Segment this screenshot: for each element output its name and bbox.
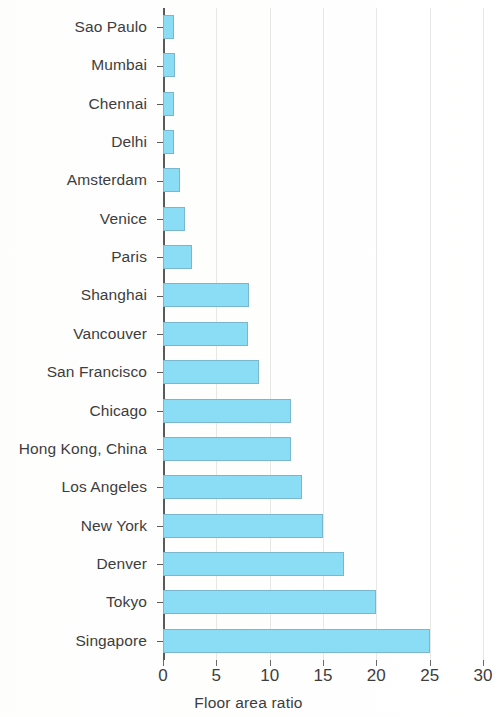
bar-row [163, 545, 483, 583]
bar[interactable] [163, 130, 174, 154]
bar[interactable] [163, 322, 248, 346]
bar-row [163, 583, 483, 621]
y-axis-label: New York [81, 507, 147, 545]
bar-row [163, 430, 483, 468]
x-axis-tick-label: 5 [212, 666, 221, 686]
bar[interactable] [163, 15, 174, 39]
bar[interactable] [163, 552, 344, 576]
y-axis-label: Vancouver [73, 315, 147, 353]
bar-row [163, 161, 483, 199]
y-axis-label: Los Angeles [61, 468, 147, 506]
y-axis-label: Mumbai [91, 46, 147, 84]
bar[interactable] [163, 514, 323, 538]
bar-row [163, 200, 483, 238]
y-axis-label: Tokyo [106, 583, 147, 621]
y-axis-label: Singapore [75, 622, 147, 660]
y-axis-label: Amsterdam [67, 161, 147, 199]
bar[interactable] [163, 92, 174, 116]
bar-row [163, 353, 483, 391]
bar[interactable] [163, 168, 180, 192]
bar[interactable] [163, 399, 291, 423]
y-axis-category-labels: Sao PauloMumbaiChennaiDelhiAmsterdamVeni… [0, 8, 155, 660]
bar[interactable] [163, 360, 259, 384]
x-axis-title: Floor area ratio [0, 694, 497, 712]
y-axis-label: Shanghai [81, 276, 147, 314]
bar-row [163, 238, 483, 276]
bar-row [163, 315, 483, 353]
x-axis-tick-label: 10 [260, 666, 279, 686]
bar[interactable] [163, 590, 376, 614]
y-axis-label: Chicago [89, 392, 147, 430]
y-axis-label: Denver [96, 545, 147, 583]
gridline-30 [483, 8, 484, 660]
bar[interactable] [163, 53, 175, 77]
floor-area-ratio-bar-chart: Sao PauloMumbaiChennaiDelhiAmsterdamVeni… [0, 0, 497, 717]
bar-row [163, 8, 483, 46]
y-axis-label: San Francisco [47, 353, 147, 391]
y-axis-label: Delhi [111, 123, 147, 161]
y-axis-label: Venice [100, 200, 147, 238]
x-axis-tick-label: 20 [367, 666, 386, 686]
y-axis-label: Paris [111, 238, 147, 276]
bar-row [163, 123, 483, 161]
bar[interactable] [163, 207, 185, 231]
x-axis-tick-label: 30 [474, 666, 493, 686]
bar[interactable] [163, 629, 430, 653]
y-axis-label: Chennai [89, 85, 147, 123]
bar-row [163, 46, 483, 84]
y-axis-label: Hong Kong, China [19, 430, 147, 468]
bar-row [163, 276, 483, 314]
bar-series [163, 8, 483, 660]
bar[interactable] [163, 475, 302, 499]
y-axis-label: Sao Paulo [75, 8, 147, 46]
bar-row [163, 392, 483, 430]
bar[interactable] [163, 283, 249, 307]
bar-row [163, 507, 483, 545]
x-axis-tick-label: 25 [420, 666, 439, 686]
x-axis-tick-label: 0 [158, 666, 167, 686]
bar-row [163, 622, 483, 660]
bar[interactable] [163, 437, 291, 461]
bar[interactable] [163, 245, 192, 269]
x-axis-tick-label: 15 [314, 666, 333, 686]
plot-area [163, 8, 483, 660]
bar-row [163, 85, 483, 123]
bar-row [163, 468, 483, 506]
